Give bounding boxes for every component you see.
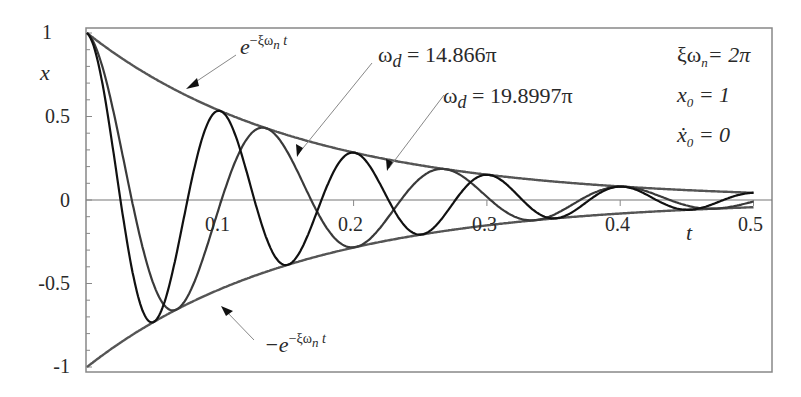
envelope-upper-label: e−ξωn t (240, 36, 287, 58)
param-xi-omega: ξωn= 2π (677, 44, 750, 69)
x-tick-label: 0.5 (738, 214, 763, 234)
y-tick-label: -1 (30, 356, 70, 376)
envelope-lower-curve (87, 207, 754, 367)
x-tick-label: 0.2 (338, 214, 363, 234)
arrow-icon (296, 144, 303, 157)
x-tick-label: 0.1 (205, 214, 230, 234)
arrow-icon (221, 306, 233, 316)
y-tick-label: 0.5 (30, 106, 70, 126)
arrow-icon (186, 78, 199, 89)
envelope-lower-label: −e−ξωn t (264, 334, 326, 356)
param-x0: x0 = 1 (677, 84, 730, 109)
x-axis-label: t (686, 222, 692, 244)
omega-label-2: ωd = 19.8997π (443, 85, 573, 111)
x-tick-label: 0.3 (472, 214, 497, 234)
curve-omega-14866 (87, 33, 754, 310)
y-tick-label: -0.5 (30, 273, 70, 293)
y-tick-label: 0 (30, 190, 70, 210)
arrowheads (186, 78, 393, 316)
x-tick-label: 0.4 (605, 214, 630, 234)
y-tick-label: 1 (12, 22, 52, 42)
annotation-leaders (194, 55, 444, 340)
param-x0-dot: ẋ0 = 0 (677, 124, 730, 149)
y-axis-ticks (86, 33, 92, 367)
omega-label-1: ωd = 14.866π (378, 44, 497, 70)
y-axis-label: x (40, 62, 50, 84)
